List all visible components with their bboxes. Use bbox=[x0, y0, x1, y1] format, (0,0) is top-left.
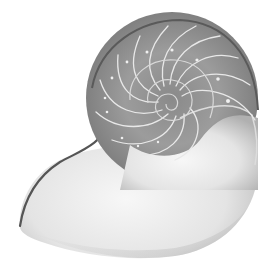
nautilus-shell-image bbox=[0, 0, 277, 280]
nautilus-shell-drawing bbox=[0, 0, 277, 280]
